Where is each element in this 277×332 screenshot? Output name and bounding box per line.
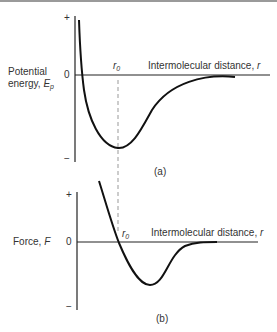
a-zero-label: 0 [64, 69, 70, 81]
b-r0-label: r0 [122, 228, 129, 243]
a-x-axis-label: Intermolecular distance, r [148, 60, 260, 72]
diagram-canvas [0, 0, 277, 332]
b-plus-label: + [66, 189, 72, 201]
b-minus-label: − [66, 301, 72, 313]
a-r0-sub: 0 [116, 65, 120, 72]
a-ylabel-sub: p [50, 83, 54, 90]
a-xlabel-symbol: r [257, 60, 260, 71]
b-caption: (b) [156, 313, 168, 325]
a-xlabel-text: Intermolecular distance, [148, 60, 257, 71]
a-ylabel-line1: Potential [8, 66, 54, 78]
a-minus-label: − [64, 153, 70, 165]
b-x-axis-label: Intermolecular distance, r [151, 227, 263, 239]
a-y-axis-label: Potential energy, Ep [8, 66, 54, 93]
b-zero-label: 0 [66, 236, 72, 248]
a-r0-label: r0 [113, 60, 120, 75]
a-plus-label: + [64, 12, 70, 24]
potential-energy-curve [79, 20, 235, 148]
b-y-axis-label: Force, F [13, 236, 50, 248]
a-caption: (a) [154, 166, 166, 178]
a-ylabel-text: energy, [8, 78, 43, 89]
b-ylabel-text: Force, [13, 236, 44, 247]
b-xlabel-text: Intermolecular distance, [151, 227, 260, 238]
b-r0-sub: 0 [125, 233, 129, 240]
b-xlabel-symbol: r [260, 227, 263, 238]
b-ylabel-symbol: F [44, 236, 50, 247]
a-ylabel-line2: energy, Ep [8, 78, 54, 93]
